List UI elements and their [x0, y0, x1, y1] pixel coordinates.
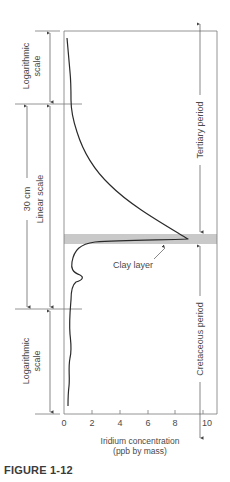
clay-layer-label: Clay layer [113, 260, 153, 270]
svg-text:4: 4 [117, 418, 122, 428]
x-axis-tick-labels: 0 2 4 6 8 10 [61, 418, 212, 428]
clay-layer-pointer [154, 248, 165, 259]
linear-scale-label: Linear scale [35, 175, 45, 224]
bottom-log-scale-label-1: Logarithmic [21, 337, 31, 384]
iridium-profile-chart: 0 2 4 6 8 10 Logarithmic scale 30 cm Lin… [0, 0, 230, 482]
x-axis-ticks [92, 410, 203, 414]
x-axis-label: Iridium concentration (ppb by mass) [64, 436, 216, 456]
svg-text:0: 0 [61, 418, 66, 428]
top-log-scale-label-2: scale [32, 55, 42, 76]
svg-text:10: 10 [202, 418, 212, 428]
tertiary-period-label: Tertiary period [195, 101, 205, 158]
svg-text:2: 2 [89, 418, 94, 428]
x-axis-label-line2: (ppb by mass) [64, 446, 216, 456]
iridium-curve [67, 38, 188, 406]
figure-caption: FIGURE 1-12 [4, 464, 73, 476]
svg-text:8: 8 [172, 418, 177, 428]
thirty-cm-label: 30 cm [22, 187, 32, 212]
svg-text:6: 6 [145, 418, 150, 428]
bottom-log-scale-label-2: scale [32, 350, 42, 371]
top-log-scale-label-1: Logarithmic [21, 42, 31, 89]
clay-layer-band [64, 234, 217, 244]
cretaceous-period-label: Cretaceous period [195, 302, 205, 376]
x-axis-label-line1: Iridium concentration [64, 436, 216, 446]
